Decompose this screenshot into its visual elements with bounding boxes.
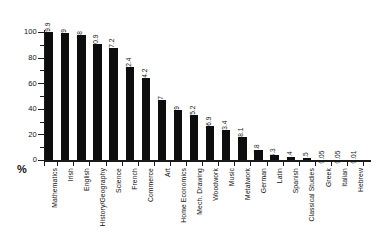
x-axis-category-label: Italian	[342, 168, 349, 187]
x-axis-category-label: Music	[229, 168, 236, 186]
bar	[174, 110, 182, 160]
x-axis-tick	[250, 161, 251, 166]
x-axis-tick	[331, 161, 332, 166]
x-axis-category-label: Metalwork	[245, 168, 252, 200]
bar	[142, 78, 150, 160]
bar	[126, 67, 134, 160]
bar-value-label: 7.8	[255, 144, 262, 153]
x-axis-tick	[154, 161, 155, 166]
bar-value-label: 18.1	[239, 127, 246, 140]
y-axis-tick	[38, 58, 44, 59]
bar-value-label: 98	[78, 31, 85, 39]
x-axis-category-label: Greek	[326, 168, 333, 187]
x-axis-category-label: Hebrew	[358, 168, 365, 192]
bar	[206, 126, 214, 160]
y-axis-minor-tick	[40, 70, 44, 71]
x-axis-tick	[283, 161, 284, 166]
x-axis-tick	[202, 161, 203, 166]
y-axis-tick-label: 40	[7, 105, 37, 113]
y-axis-tick-label: 20	[7, 131, 37, 139]
x-axis-category-label: English	[84, 168, 91, 191]
x-axis-category-label: Spanish	[293, 168, 300, 193]
bar-value-label: 99.9	[45, 22, 52, 35]
bar	[45, 32, 53, 160]
x-axis-category-label: Woodwork	[213, 168, 220, 201]
y-axis-tick-label: 100	[7, 28, 37, 36]
bar	[190, 115, 198, 160]
x-axis-tick	[122, 161, 123, 166]
y-axis-minor-tick	[40, 147, 44, 148]
x-axis-tick	[89, 161, 90, 166]
x-axis-tick	[106, 161, 107, 166]
x-axis-category-label: Irish	[68, 168, 75, 181]
x-axis-tick	[347, 161, 348, 166]
x-axis-category-label: Commerce	[148, 168, 155, 202]
bar	[61, 33, 69, 160]
x-axis-category-label: Home Economics	[181, 168, 188, 223]
bar-value-label: 35.2	[190, 105, 197, 118]
x-axis-category-label: German	[261, 168, 268, 193]
x-axis-line	[44, 160, 371, 162]
bar	[93, 44, 101, 160]
x-axis-category-label: History/Geography	[100, 168, 107, 226]
x-axis-tick	[363, 161, 364, 166]
x-axis-tick	[138, 161, 139, 166]
y-axis-tick	[38, 32, 44, 33]
bar-value-label: 64.2	[142, 68, 149, 81]
bar-value-label: 47	[158, 96, 165, 104]
bar-value-label: 87.2	[110, 39, 117, 52]
x-axis-tick	[170, 161, 171, 166]
y-axis-tick	[38, 109, 44, 110]
x-axis-tick	[315, 161, 316, 166]
x-axis-tick	[73, 161, 74, 166]
x-axis-tick	[234, 161, 235, 166]
y-axis-unit-label: %	[17, 164, 27, 175]
y-axis-minor-tick	[40, 122, 44, 123]
bar-value-label: 99	[62, 29, 69, 37]
x-axis-tick	[218, 161, 219, 166]
x-axis-category-label: Mathematics	[52, 168, 59, 208]
bar-value-label: 23.4	[223, 120, 230, 133]
bar-value-label: 90.9	[94, 34, 101, 47]
x-axis-tick	[44, 161, 45, 166]
bar-value-label: 4.3	[271, 149, 278, 158]
y-axis-minor-tick	[40, 96, 44, 97]
x-axis-category-label: Mech. Drawing	[197, 168, 204, 215]
x-axis-tick	[57, 161, 58, 166]
x-axis-category-label: Art	[165, 168, 172, 177]
x-axis-category-label: Classical Studies	[309, 168, 316, 221]
x-axis-category-label: French	[132, 168, 139, 190]
x-axis-category-label: Latin	[277, 168, 284, 183]
y-axis-tick-label: 60	[7, 80, 37, 88]
bar	[77, 35, 85, 160]
bar	[158, 100, 166, 160]
y-axis-tick	[38, 83, 44, 84]
bar-chart: 020406080100 % 99.9999890.987.272.464.24…	[0, 0, 386, 242]
x-axis-tick	[186, 161, 187, 166]
y-axis-minor-tick	[40, 45, 44, 46]
bar-value-label: 39	[174, 106, 181, 114]
x-axis-category-label: Science	[116, 168, 123, 193]
x-axis-tick	[267, 161, 268, 166]
y-axis-tick-label: 80	[7, 54, 37, 62]
x-axis-tick	[299, 161, 300, 166]
bar-value-label: 72.4	[126, 58, 133, 71]
bar	[109, 48, 117, 160]
bar-value-label: 26.9	[206, 116, 213, 129]
y-axis-tick	[38, 134, 44, 135]
bar	[222, 130, 230, 160]
